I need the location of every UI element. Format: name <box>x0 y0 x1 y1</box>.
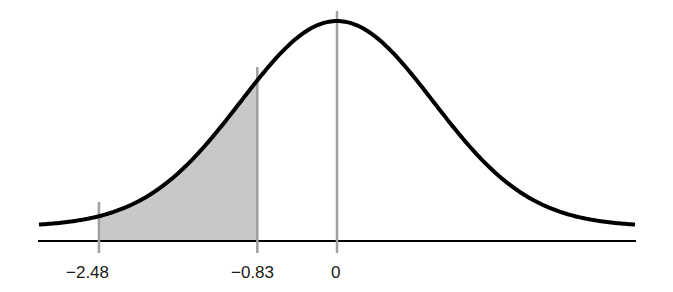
tick-label-neg-2-48: −2.48 <box>66 263 109 282</box>
tick-labels: −2.48 −0.83 0 <box>66 263 340 282</box>
tick-label-neg-0-83: −0.83 <box>231 263 274 282</box>
tick-label-zero: 0 <box>331 263 340 282</box>
normal-distribution-chart: −2.48 −0.83 0 <box>0 0 673 292</box>
shaded-area <box>99 80 257 241</box>
